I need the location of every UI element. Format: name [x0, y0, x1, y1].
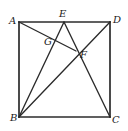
inner-segments	[19, 22, 110, 117]
vertex-label-A: A	[9, 16, 16, 26]
vertex-label-E: E	[59, 9, 66, 19]
segment-EC-line	[64, 22, 110, 117]
vertex-label-C: C	[112, 115, 120, 125]
vertex-label-D: D	[113, 15, 121, 25]
vertex-label-G: G	[44, 37, 52, 47]
geometry-canvas	[0, 0, 128, 131]
segment-BE-line	[19, 22, 64, 117]
vertex-label-F: F	[80, 50, 87, 60]
geometry-figure: A E D G F B C	[0, 0, 128, 131]
vertex-label-B: B	[10, 113, 17, 123]
diagonal-BD-line	[19, 22, 110, 117]
